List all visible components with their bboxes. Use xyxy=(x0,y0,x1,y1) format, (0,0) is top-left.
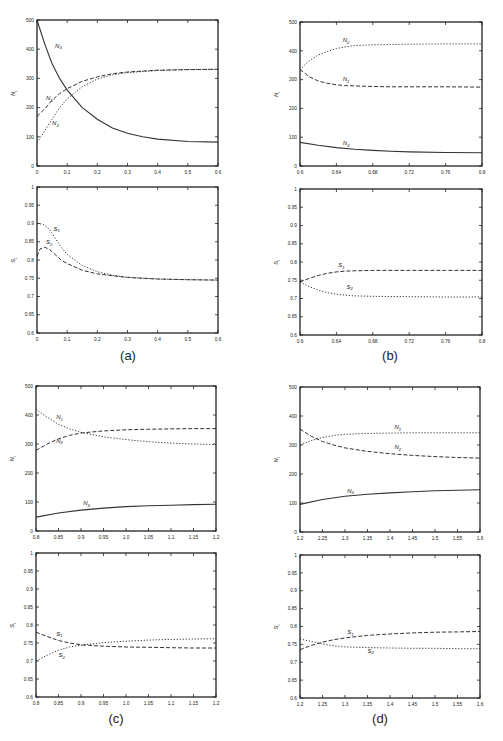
plot-frame xyxy=(300,22,482,166)
x-tick-label: 1.4 xyxy=(387,702,394,707)
plot-frame xyxy=(37,20,218,166)
x-tick-label: 1.0 xyxy=(123,535,130,540)
x-tick-label: 0.5 xyxy=(184,337,191,342)
panel-caption: (b) xyxy=(370,348,410,363)
curve-label: N3 xyxy=(347,488,354,496)
series-n3 xyxy=(300,142,482,152)
y-tick-label: 0.8 xyxy=(27,258,34,263)
y-tick-label: 200 xyxy=(26,105,34,110)
x-tick-label: 0.8 xyxy=(479,339,486,344)
series-n2 xyxy=(37,69,218,142)
series-s1 xyxy=(37,224,218,281)
x-tick-label: 1.2 xyxy=(213,701,220,706)
x-tick-label: 1.4 xyxy=(387,536,394,541)
x-tick-label: 1.2 xyxy=(213,535,220,540)
x-tick-label: 0.9 xyxy=(78,701,85,706)
y-tick-label: 0.95 xyxy=(288,205,298,210)
x-tick-label: 0.64 xyxy=(332,170,342,175)
y-tick-label: 1 xyxy=(30,551,33,556)
curve-label: S2 xyxy=(368,648,375,656)
figure-canvas: 00.10.20.30.40.50.60100200300400500NiN3N… xyxy=(0,0,503,741)
y-tick-label: 0.95 xyxy=(24,569,34,574)
x-tick-label: 0.8 xyxy=(479,170,486,175)
curve-label: S1 xyxy=(338,262,344,270)
y-tick-label: 0.75 xyxy=(288,642,298,647)
x-tick-label: 1.2 xyxy=(297,536,304,541)
y-tick-label: 0.6 xyxy=(290,333,297,338)
y-axis-label: Si xyxy=(9,622,17,628)
y-tick-label: 0.85 xyxy=(288,241,298,246)
series-s1 xyxy=(36,632,216,648)
y-tick-label: 1 xyxy=(31,185,34,190)
y-tick-label: 200 xyxy=(289,472,297,477)
x-tick-label: 1.1 xyxy=(168,701,175,706)
x-tick-label: 1.2 xyxy=(297,702,304,707)
x-tick-label: 0.2 xyxy=(94,170,101,175)
x-tick-label: 0.6 xyxy=(297,339,304,344)
y-tick-label: 300 xyxy=(289,443,297,448)
x-tick-label: 0.6 xyxy=(297,170,304,175)
y-tick-label: 100 xyxy=(289,501,297,506)
curve-label: S2 xyxy=(46,239,53,247)
x-tick-label: 1.6 xyxy=(477,536,484,541)
y-tick-label: 400 xyxy=(26,47,34,52)
curve-label: N1 xyxy=(56,414,63,422)
y-tick-label: 0.65 xyxy=(25,312,35,317)
x-tick-label: 1.45 xyxy=(408,702,418,707)
x-tick-label: 0.6 xyxy=(215,170,222,175)
y-tick-label: 0.6 xyxy=(27,331,34,336)
x-tick-label: 0.85 xyxy=(54,535,64,540)
series-n1 xyxy=(36,409,216,444)
x-tick-label: 1.1 xyxy=(168,535,175,540)
y-tick-label: 0.85 xyxy=(24,605,34,610)
x-tick-label: 0.64 xyxy=(332,339,342,344)
x-tick-label: 1.45 xyxy=(408,536,418,541)
y-axis-label: Si xyxy=(273,259,281,265)
chart-a-top: 00.10.20.30.40.50.60100200300400500NiN3N… xyxy=(10,18,222,175)
x-tick-label: 1.55 xyxy=(453,702,463,707)
y-tick-label: 0 xyxy=(294,164,297,169)
series-s2 xyxy=(300,282,482,297)
series-n3 xyxy=(37,20,218,142)
y-tick-label: 0.95 xyxy=(25,203,35,208)
y-tick-label: 0.7 xyxy=(26,659,33,664)
y-tick-label: 0.6 xyxy=(290,696,297,701)
chart-c-bottom: 0.80.850.90.951.01.051.11.151.20.60.650.… xyxy=(9,551,220,706)
curve-label: N3 xyxy=(55,43,62,51)
chart-d-bottom: 1.21.251.31.351.41.451.51.551.60.60.650.… xyxy=(273,553,484,707)
curve-label: N1 xyxy=(343,76,350,84)
curve-label: S1 xyxy=(56,631,62,639)
y-axis-label: Ni xyxy=(9,455,17,461)
chart-b-top: 0.60.640.680.720.760.80100200300400500Ni… xyxy=(273,20,486,175)
x-tick-label: 0.72 xyxy=(405,170,415,175)
y-tick-label: 100 xyxy=(25,500,33,505)
series-n3 xyxy=(36,504,216,517)
y-tick-label: 100 xyxy=(26,135,34,140)
curve-label: N2 xyxy=(56,438,63,446)
y-tick-label: 0.7 xyxy=(27,294,34,299)
x-tick-label: 0.95 xyxy=(99,535,109,540)
curve-label: N2 xyxy=(395,444,402,452)
x-tick-label: 1.35 xyxy=(363,702,373,707)
x-tick-label: 0.85 xyxy=(54,701,64,706)
x-tick-label: 0.4 xyxy=(154,170,161,175)
y-tick-label: 1 xyxy=(294,187,297,192)
y-tick-label: 400 xyxy=(289,49,297,54)
x-tick-label: 1.55 xyxy=(453,536,463,541)
x-tick-label: 0.2 xyxy=(94,337,101,342)
y-tick-label: 400 xyxy=(25,413,33,418)
curve-label: S1 xyxy=(54,226,60,234)
y-tick-label: 0.8 xyxy=(26,623,33,628)
curve-label: S1 xyxy=(347,629,353,637)
chart-b-bottom: 0.60.640.680.720.760.80.60.650.70.750.80… xyxy=(273,187,486,344)
y-axis-label: Si xyxy=(10,257,18,263)
plot-frame xyxy=(37,187,218,333)
y-tick-label: 0.65 xyxy=(288,678,298,683)
x-tick-label: 1.05 xyxy=(144,701,154,706)
curve-label: N1 xyxy=(395,424,402,432)
chart-c-top: 0.80.850.90.951.01.051.11.151.2010020030… xyxy=(9,384,220,540)
series-s2 xyxy=(37,247,218,280)
y-tick-label: 0.8 xyxy=(290,260,297,265)
y-tick-label: 0 xyxy=(294,530,297,535)
plot-frame xyxy=(300,189,482,335)
